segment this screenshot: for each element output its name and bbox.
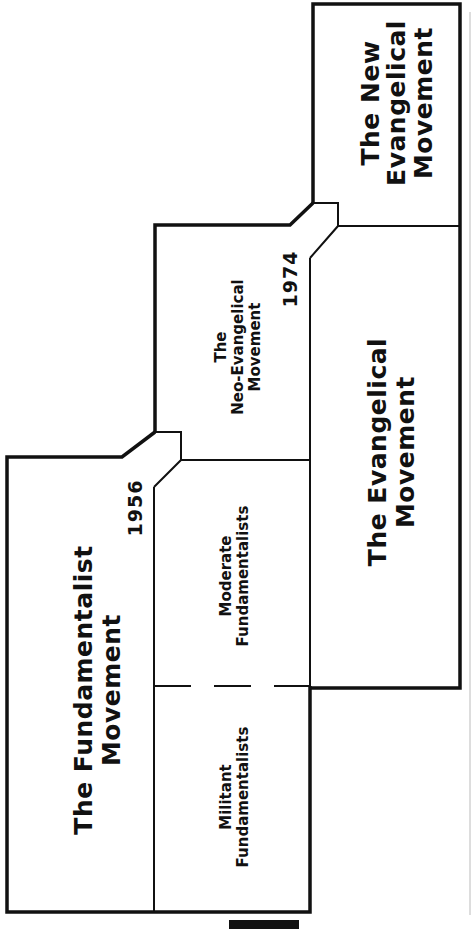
- year-1974: 1974: [280, 251, 301, 308]
- fundamentalist-label: The Fundamentalist Movement: [70, 545, 126, 834]
- evangelical-label-line1: The Evangelical: [364, 338, 392, 566]
- militant-label-line2: Fundamentalists: [235, 727, 252, 868]
- year-1956-label: 1956: [125, 480, 146, 537]
- evangelical-label-line2: Movement: [392, 338, 420, 566]
- evangelical-label: The Evangelical Movement: [364, 338, 420, 566]
- connector-1974: [310, 203, 338, 258]
- neo-evangelical-label: The Neo-Evangelical Movement: [213, 279, 263, 414]
- militant-label-line1: Militant: [218, 727, 235, 868]
- fundamentalist-box-border: [7, 432, 310, 912]
- moderate-label: Moderate Fundamentalists: [218, 506, 252, 647]
- new-evangelical-label: The New Evangelical Movement: [358, 20, 437, 186]
- militant-label: Militant Fundamentalists: [218, 727, 252, 868]
- moderate-label-line1: Moderate: [218, 506, 235, 647]
- moderate-label-line2: Fundamentalists: [235, 506, 252, 647]
- fundamentalist-label-line1: The Fundamentalist: [70, 545, 98, 834]
- neo-evangelical-label-line2: Neo-Evangelical: [230, 279, 247, 414]
- new-evangelical-label-line2: Evangelical: [384, 20, 410, 186]
- new-evangelical-label-line1: The New: [358, 20, 384, 186]
- year-1956: 1956: [125, 480, 146, 537]
- connector-1956: [154, 432, 181, 487]
- neo-evangelical-label-line3: Movement: [246, 279, 263, 414]
- year-1974-label: 1974: [280, 251, 301, 308]
- fundamentalist-label-line2: Movement: [98, 545, 126, 834]
- scale-bar: [229, 920, 299, 929]
- new-evangelical-label-line3: Movement: [410, 20, 436, 186]
- neo-evangelical-label-line1: The: [213, 279, 230, 414]
